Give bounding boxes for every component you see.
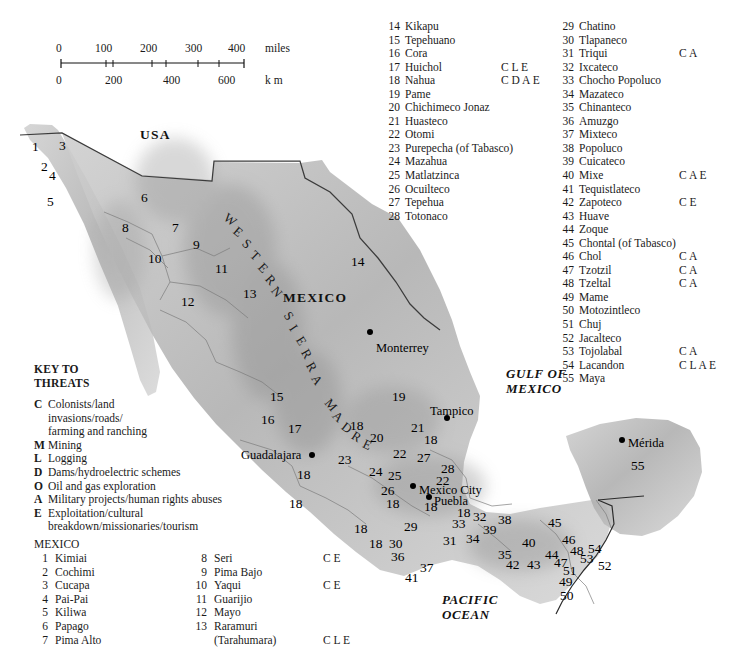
list-item: 39Cuicateco	[557, 155, 676, 169]
list-item: 9Pima Bajo	[193, 566, 276, 580]
map-number-label: 5	[47, 194, 54, 210]
list-item-label: Pame	[400, 88, 431, 102]
map-number-label: 39	[483, 522, 497, 538]
map-number-label: 7	[172, 220, 179, 236]
list-item-label: Chichimeco Jonaz	[400, 101, 490, 115]
list-item-number: 50	[557, 304, 574, 318]
threat-label-continuation: breakdown/missionaries/tourism	[34, 520, 222, 534]
list-item-threat-codes: C A	[679, 47, 697, 61]
list-item-label: Tequistlateco	[574, 183, 640, 197]
list-item-number: 18	[383, 74, 400, 88]
list-item-number: 43	[557, 210, 574, 224]
scale-km-tick-400: 400	[163, 74, 180, 86]
ocean-label-line1: PACIFIC	[442, 592, 498, 607]
list-item-number: 28	[383, 210, 400, 224]
city-label: Guadalajara	[241, 448, 301, 463]
list-item: 2Cochimi	[34, 566, 101, 580]
list-item-label: Motozintleco	[574, 304, 640, 318]
list-item: 42ZapotecoC E	[557, 196, 676, 210]
list-item: 16Cora	[383, 47, 513, 61]
city-marker-dot	[619, 437, 625, 443]
list-item-number: 40	[557, 169, 574, 183]
list-item-number: 45	[557, 237, 574, 251]
scale-km-tick-0: 0	[56, 74, 62, 86]
list-item-number: 20	[383, 101, 400, 115]
map-number-label: 53	[580, 551, 594, 567]
map-number-label: 29	[404, 519, 418, 535]
list-item-label: Tepehua	[400, 196, 444, 210]
list-item-label: Purepecha (of Tabasco)	[400, 142, 513, 156]
list-item: 29Chatino	[557, 20, 676, 34]
list-item-threat-codes: C E	[679, 196, 697, 210]
list-item: 40MixeC A E	[557, 169, 676, 183]
list-item-number: 15	[383, 34, 400, 48]
map-number-label: 4	[49, 168, 56, 184]
list-item-label: Zoque	[574, 223, 608, 237]
list-item-number: 53	[557, 345, 574, 359]
list-item-number: 19	[383, 88, 400, 102]
city-label: Tampico	[430, 404, 474, 419]
list-item: 24Mazahua	[383, 155, 513, 169]
list-item-label: Tepehuano	[400, 34, 455, 48]
threat-key-item: DDams/hydroelectric schemes	[34, 466, 222, 480]
list-item-number: 29	[557, 20, 574, 34]
list-item-number: 22	[383, 128, 400, 142]
list-item-label: Cucapa	[48, 579, 89, 593]
list-item-label: Totonaco	[400, 210, 448, 224]
list-item-label: Mazateco	[574, 88, 624, 102]
scale-km-tick-200: 200	[105, 74, 122, 86]
list-item-label: Huave	[574, 210, 609, 224]
threat-label: Exploitation/cultural	[48, 507, 143, 519]
list-item-label: Maya	[574, 372, 605, 386]
scale-ruler-icon	[60, 59, 245, 68]
threat-code: M	[34, 439, 48, 453]
list-item-label: Amuzgo	[574, 115, 619, 129]
list-item-label: Mame	[574, 291, 608, 305]
list-item-number: 47	[557, 264, 574, 278]
list-item: 37Mixteco	[557, 128, 676, 142]
list-item: 5Kiliwa	[34, 606, 101, 620]
threat-key-item: MMining	[34, 439, 222, 453]
list-item: 31TriquiC A	[557, 47, 676, 61]
key-heading-line1: KEY TO	[34, 363, 79, 375]
list-item: 53TojolabalC A	[557, 345, 676, 359]
map-number-label: 55	[631, 458, 645, 474]
list-item: 22Otomi	[383, 128, 513, 142]
list-item-number: 46	[557, 250, 574, 264]
list-item-label: Raramuri	[207, 620, 257, 634]
map-number-label: 27	[417, 450, 431, 466]
list-item-label: Chol	[574, 250, 601, 264]
list-item: 51Chuj	[557, 318, 676, 332]
list-item: 45Chontal (of Tabasco)	[557, 237, 676, 251]
list-item: 6Papago	[34, 620, 101, 634]
map-number-label: 36	[391, 549, 405, 565]
map-number-label: 34	[466, 531, 480, 547]
threat-code: D	[34, 466, 48, 480]
list-item-number: 38	[557, 142, 574, 156]
list-item-label: Guarijio	[207, 593, 252, 607]
list-item-number: 48	[557, 277, 574, 291]
list-item-threat-codes: C L E	[501, 61, 528, 75]
list-item-number: 39	[557, 155, 574, 169]
threat-label: Oil and gas exploration	[48, 480, 156, 492]
map-number-label: 21	[411, 420, 425, 436]
threat-key-item: OOil and gas exploration	[34, 480, 222, 494]
list-item-label: Chinanteco	[574, 101, 631, 115]
city-label: Mérida	[628, 436, 664, 451]
list-item-threat-codes: C L A E	[679, 359, 716, 373]
scale-miles-unit: miles	[265, 42, 290, 54]
map-number-label: 40	[522, 535, 536, 551]
list-item: 52Jacalteco	[557, 332, 676, 346]
list-item-number: 6	[34, 620, 48, 634]
threat-key-item: EExploitation/cultural	[34, 507, 222, 521]
city-marker-dot	[367, 329, 373, 335]
list-item: 43Huave	[557, 210, 676, 224]
map-number-label: 38	[498, 512, 512, 528]
map-number-label: 12	[181, 294, 195, 310]
list-item-number: 27	[383, 196, 400, 210]
scale-mile-tick-0: 0	[56, 42, 62, 54]
map-number-label: 2	[41, 159, 48, 175]
list-item: 19Pame	[383, 88, 513, 102]
peoples-list-column-29-55: 29Chatino30Tlapaneco31TriquiC A32Ixcatec…	[557, 20, 676, 386]
list-item-number: 16	[383, 47, 400, 61]
